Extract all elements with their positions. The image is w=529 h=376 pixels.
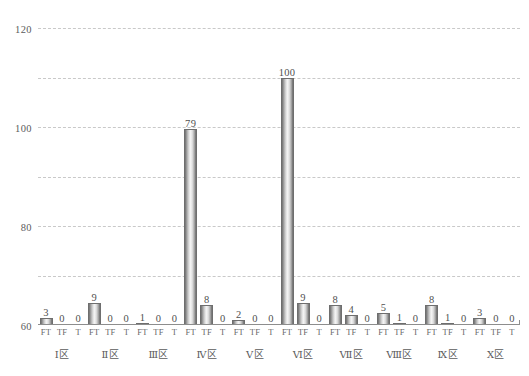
x-axis-subcategory-label: T bbox=[118, 326, 134, 338]
bar-slot: 0 bbox=[408, 28, 424, 325]
bar-slot: 1 bbox=[440, 28, 456, 325]
bar-slot: 1 bbox=[391, 28, 407, 325]
bar[interactable]: 79 bbox=[184, 129, 197, 325]
bar-groups: 300900100798020010090840510810300 bbox=[38, 28, 520, 325]
x-axis-subcategory-label: TF bbox=[54, 326, 70, 338]
bar-slot: 0 bbox=[118, 28, 134, 325]
bar-slot: 0 bbox=[102, 28, 118, 325]
bar-value-label: 0 bbox=[108, 313, 114, 324]
x-axis-subcategory-label: T bbox=[504, 326, 520, 338]
bar-slot: 0 bbox=[167, 28, 183, 325]
x-axis-subcategory-label: T bbox=[456, 326, 472, 338]
plot-area: 020406080100120 300900100798020010090840… bbox=[38, 28, 520, 325]
x-axis-subcategory-label: FT bbox=[38, 326, 54, 338]
bar-value-label: 0 bbox=[461, 313, 467, 324]
bar-value-label: 8 bbox=[332, 294, 338, 305]
y-axis-tick-label: 60 bbox=[21, 321, 38, 332]
bar-value-label: 0 bbox=[59, 313, 65, 324]
x-axis-subcategory-label: TF bbox=[199, 326, 215, 338]
x-axis-subcategory-label: FT bbox=[279, 326, 295, 338]
bar-slot: 0 bbox=[359, 28, 375, 325]
bar-slot: 0 bbox=[311, 28, 327, 325]
x-axis-group-label: Ⅰ区 bbox=[38, 346, 86, 361]
x-axis-group: FTTFTⅠ区 bbox=[38, 326, 86, 374]
x-axis-endcap bbox=[519, 320, 520, 325]
bar-value-label: 0 bbox=[124, 313, 130, 324]
bar-slot: 0 bbox=[247, 28, 263, 325]
x-axis-line bbox=[38, 324, 520, 325]
bar-slot: 9 bbox=[295, 28, 311, 325]
x-axis-group: FTTFTⅣ区 bbox=[183, 326, 231, 374]
bar-value-label: 0 bbox=[316, 313, 322, 324]
x-axis-subcategory-label: TF bbox=[295, 326, 311, 338]
bar-slot: 0 bbox=[54, 28, 70, 325]
bar[interactable]: 8 bbox=[425, 305, 438, 325]
x-axis-group-label: Ⅸ区 bbox=[424, 346, 472, 361]
x-axis-subcategory-label: TF bbox=[102, 326, 118, 338]
bar-value-label: 8 bbox=[429, 294, 435, 305]
x-axis-subcategory-label: FT bbox=[86, 326, 102, 338]
bar-group: 200 bbox=[231, 28, 279, 325]
x-axis-group: FTTFTⅤ区 bbox=[231, 326, 279, 374]
y-axis-tick-label: 80 bbox=[21, 222, 38, 233]
bar-slot: 0 bbox=[70, 28, 86, 325]
x-axis-subcategory-label: T bbox=[408, 326, 424, 338]
x-axis-subcategories: FTTFT bbox=[38, 326, 86, 338]
bar-value-label: 100 bbox=[279, 67, 296, 78]
x-axis-group: FTTFTⅦ区 bbox=[327, 326, 375, 374]
bar-value-label: 2 bbox=[236, 309, 242, 320]
bar-group: 900 bbox=[86, 28, 134, 325]
bar[interactable]: 8 bbox=[200, 305, 213, 325]
x-axis-group-label: Ⅶ区 bbox=[327, 346, 375, 361]
bar-value-label: 1 bbox=[140, 312, 146, 323]
bar-value-label: 3 bbox=[477, 307, 483, 318]
bar-slot: 8 bbox=[424, 28, 440, 325]
x-axis-subcategory-label: T bbox=[70, 326, 86, 338]
x-axis-subcategories: FTTFT bbox=[375, 326, 423, 338]
bar-value-label: 4 bbox=[349, 304, 355, 315]
bar[interactable]: 9 bbox=[88, 303, 101, 325]
bar-value-label: 0 bbox=[172, 313, 178, 324]
bar-value-label: 0 bbox=[252, 313, 258, 324]
bar[interactable]: 100 bbox=[281, 78, 294, 326]
bar-value-label: 8 bbox=[204, 294, 210, 305]
x-axis-subcategories: FTTFT bbox=[231, 326, 279, 338]
x-axis-group: FTTFTⅧ区 bbox=[375, 326, 423, 374]
bar-value-label: 1 bbox=[445, 312, 451, 323]
x-axis-group-label: Ⅴ区 bbox=[231, 346, 279, 361]
x-axis-subcategory-label: TF bbox=[343, 326, 359, 338]
bar-group: 300 bbox=[472, 28, 520, 325]
bar-slot: 0 bbox=[215, 28, 231, 325]
x-axis-subcategory-label: FT bbox=[424, 326, 440, 338]
x-axis-subcategory-label: FT bbox=[327, 326, 343, 338]
bar[interactable]: 8 bbox=[329, 305, 342, 325]
bar-slot: 1 bbox=[134, 28, 150, 325]
bar-slot: 0 bbox=[263, 28, 279, 325]
bar-value-label: 1 bbox=[397, 312, 403, 323]
bar-group: 510 bbox=[375, 28, 423, 325]
bar[interactable]: 9 bbox=[297, 303, 310, 325]
bar-value-label: 5 bbox=[381, 302, 387, 313]
bar-value-label: 0 bbox=[509, 313, 515, 324]
bar-value-label: 0 bbox=[75, 313, 81, 324]
bar-slot: 0 bbox=[504, 28, 520, 325]
x-axis-subcategory-label: T bbox=[359, 326, 375, 338]
bar-value-label: 9 bbox=[300, 292, 306, 303]
x-axis-subcategories: FTTFT bbox=[424, 326, 472, 338]
bar-slot: 5 bbox=[375, 28, 391, 325]
bar-slot: 2 bbox=[231, 28, 247, 325]
x-axis-group-label: Ⅳ区 bbox=[183, 346, 231, 361]
x-axis-group: FTTFTⅡ区 bbox=[86, 326, 134, 374]
x-axis-group-label: Ⅹ区 bbox=[472, 346, 520, 361]
x-axis-subcategories: FTTFT bbox=[327, 326, 375, 338]
x-axis-group-label: Ⅱ区 bbox=[86, 346, 134, 361]
x-axis-subcategory-label: T bbox=[215, 326, 231, 338]
bar-value-label: 0 bbox=[365, 313, 371, 324]
bar-value-label: 0 bbox=[268, 313, 274, 324]
bar-value-label: 0 bbox=[220, 313, 226, 324]
x-axis-subcategories: FTTFT bbox=[472, 326, 520, 338]
bar-slot: 79 bbox=[183, 28, 199, 325]
x-axis-subcategory-label: FT bbox=[231, 326, 247, 338]
bar-slot: 9 bbox=[86, 28, 102, 325]
bar-group: 10090 bbox=[279, 28, 327, 325]
